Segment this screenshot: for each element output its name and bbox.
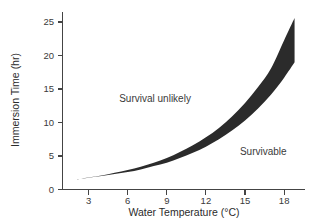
- y-tick-label: 0: [49, 184, 54, 195]
- y-tick-label: 20: [43, 50, 54, 61]
- y-axis-ticks: 0510152025: [43, 16, 62, 194]
- y-tick-label: 10: [43, 117, 54, 128]
- x-tick-label: 6: [125, 195, 130, 206]
- region-label: Survival unlikely: [119, 93, 191, 104]
- x-axis-title: Water Temperature (°C): [129, 206, 240, 218]
- x-tick-label: 12: [201, 195, 212, 206]
- x-tick-label: 18: [279, 195, 290, 206]
- x-axis-ticks: 369121518: [86, 190, 290, 207]
- y-tick-label: 25: [43, 16, 54, 27]
- x-tick-label: 15: [240, 195, 251, 206]
- y-tick-label: 5: [49, 150, 54, 161]
- chart-figure: 0510152025 Immersion Time (hr) 369121518…: [0, 0, 324, 224]
- x-axis-group: 369121518 Water Temperature (°C): [63, 190, 306, 219]
- survivability-chart: 0510152025 Immersion Time (hr) 369121518…: [0, 0, 324, 224]
- region-label: Survivable: [240, 146, 287, 157]
- x-tick-label: 3: [86, 195, 91, 206]
- y-axis-group: 0510152025 Immersion Time (hr): [9, 12, 63, 195]
- y-tick-label: 15: [43, 83, 54, 94]
- y-axis-title: Immersion Time (hr): [9, 53, 21, 147]
- x-tick-label: 9: [164, 195, 169, 206]
